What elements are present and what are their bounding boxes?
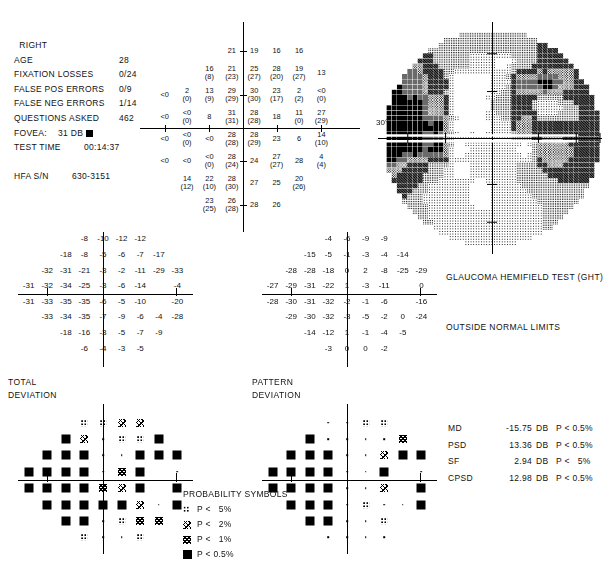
deviation-value-cell: -28 <box>172 313 184 321</box>
axis-tick <box>240 51 247 52</box>
deviation-value-cell: -33 <box>172 267 184 275</box>
probability-symbol-dot <box>383 537 385 539</box>
probability-symbol-p5 <box>137 436 144 443</box>
deviation-value-cell: -25 <box>397 267 409 275</box>
threshold-value-cell: 22(10) <box>203 175 216 190</box>
legend-label-p1: P < 1% <box>197 532 232 547</box>
probability-symbol-p05 <box>61 500 70 509</box>
threshold-value-cell: 26(28) <box>225 197 238 212</box>
axis-tick <box>165 125 166 132</box>
deviation-value-cell: -30 <box>304 313 316 321</box>
probability-symbol-dot <box>102 520 104 522</box>
pattern-deviation-probability-plot <box>262 404 437 554</box>
probability-symbol-p05 <box>80 500 89 509</box>
deviation-value-cell: -31 <box>23 298 35 306</box>
deviation-value-cell: -12 <box>134 235 146 243</box>
deviation-value-cell: -15 <box>304 251 316 259</box>
probability-symbol-p1 <box>99 484 107 492</box>
threshold-value-cell: 27 <box>250 179 258 187</box>
threshold-value-cell: <0(0) <box>317 87 326 102</box>
grayscale-axis-label: 30° <box>376 118 388 127</box>
probability-symbol-p05 <box>154 435 163 444</box>
deviation-value-cell: -9 <box>155 329 162 337</box>
deviation-value-cell: -1 <box>343 251 350 259</box>
deviation-value-cell: -5 <box>399 329 406 337</box>
probability-symbol-p05 <box>287 451 296 460</box>
ght-title: GLAUCOMA HEMIFIELD TEST (GHT) <box>446 272 603 282</box>
vertical-axis <box>243 22 244 232</box>
legend-row-p2: P < 2% <box>183 517 288 532</box>
deviation-value-cell: -6 <box>137 313 144 321</box>
p2-symbol-icon <box>183 521 191 529</box>
threshold-value-cell: <0 <box>160 157 168 165</box>
probability-symbol-p05 <box>305 451 314 460</box>
probability-symbol-p5 <box>81 419 88 426</box>
deviation-value-cell: -16 <box>416 298 428 306</box>
probability-symbol-p05 <box>324 451 333 460</box>
deviation-value-cell: 0 <box>419 282 423 290</box>
threshold-value-cell: 27(29) <box>315 109 328 124</box>
deviation-value-cell: -18 <box>60 251 72 259</box>
deviation-value-cell: -3 <box>362 282 369 290</box>
deviation-value-cell: -7 <box>137 251 144 259</box>
p1-symbol-icon <box>183 536 191 544</box>
deviation-value-cell: -3 <box>118 345 125 353</box>
horizontal-axis <box>140 128 360 129</box>
deviation-value-cell: -3 <box>99 267 106 275</box>
deviation-value-cell: -4 <box>381 329 388 337</box>
probability-symbol-dot <box>328 537 330 539</box>
total-deviation-probability-plot <box>18 404 193 554</box>
probability-symbol-dot <box>365 537 367 539</box>
probability-symbol-p05 <box>61 484 70 493</box>
probability-symbol-p05 <box>117 500 126 509</box>
deviation-value-cell: -9 <box>381 235 388 243</box>
probability-symbol-dot <box>365 520 367 522</box>
threshold-value-cell: 25 <box>272 179 280 187</box>
probability-symbol-p05 <box>324 517 333 526</box>
horizontal-axis <box>262 294 437 295</box>
deviation-value-cell: -22 <box>323 282 335 290</box>
deviation-value-cell: -10 <box>134 298 146 306</box>
table-row: MD -15.75 DB P < 0.5% <box>448 420 610 437</box>
threshold-value-cell: 25(27) <box>248 65 261 80</box>
deviation-value-cell: -18 <box>323 267 335 275</box>
deviation-value-cell: -6 <box>118 282 125 290</box>
deviation-value-cell: -5 <box>137 345 144 353</box>
deviation-value-cell: -35 <box>60 298 72 306</box>
horizontal-axis <box>18 294 193 295</box>
deviation-value-cell: -18 <box>60 329 72 337</box>
probability-symbol-p5 <box>100 419 107 426</box>
probability-symbol-p05 <box>417 451 426 460</box>
deviation-value-cell: -3 <box>99 329 106 337</box>
probability-symbol-p2 <box>80 435 88 443</box>
probability-symbol-p05 <box>80 484 89 493</box>
threshold-value-cell: 16 <box>295 47 303 55</box>
probability-symbol-dot <box>365 455 367 457</box>
deviation-value-cell: -32 <box>323 313 335 321</box>
deviation-value-cell: -33 <box>41 298 53 306</box>
threshold-value-cell: 14(12) <box>180 175 193 190</box>
deviation-value-cell: -20 <box>172 298 184 306</box>
threshold-value-cell: 16 <box>272 47 280 55</box>
threshold-value-cell: 29(29) <box>225 87 238 102</box>
index-prob-sf: P < 5% <box>556 453 610 470</box>
probability-symbol-dot <box>346 504 348 506</box>
index-unit-psd: DB <box>536 437 556 454</box>
probability-symbol-p5 <box>381 419 388 426</box>
deviation-value-cell: -35 <box>79 313 91 321</box>
probability-symbol-p05 <box>287 467 296 476</box>
probability-symbol-p2 <box>136 419 144 427</box>
deviation-value-cell: -5 <box>118 329 125 337</box>
deviation-value-cell: -28 <box>304 267 316 275</box>
probability-symbol-dot <box>346 455 348 457</box>
threshold-value-cell: <0 <box>183 157 191 165</box>
threshold-numeric-plot: 2119161616(8)21(23)25(27)28(20)19(27)13<… <box>140 22 360 232</box>
deviation-value-cell: -1 <box>362 329 369 337</box>
threshold-value-cell: 19 <box>250 47 258 55</box>
probability-symbol-p05 <box>61 435 70 444</box>
deviation-value-cell: -29 <box>416 267 428 275</box>
legend-label-p2: P < 2% <box>197 517 232 532</box>
deviation-value-cell: -5 <box>118 298 125 306</box>
threshold-value-cell: 20(26) <box>292 175 305 190</box>
deviation-value-cell: -12 <box>116 235 128 243</box>
